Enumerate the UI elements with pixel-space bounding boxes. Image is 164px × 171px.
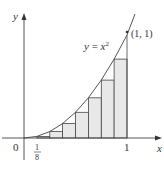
rectangles [37, 59, 127, 138]
rectangle-6 [88, 98, 101, 138]
point-1-1 [126, 31, 129, 34]
point-label: (1, 1) [131, 28, 153, 40]
tick-one-eighth-label: 1 8 [34, 143, 41, 162]
rectangle-3 [50, 132, 63, 138]
rectangle-8 [114, 59, 127, 138]
tick-1-label: 1 [124, 141, 130, 153]
function-label: y = x2 [83, 40, 110, 52]
rectangle-7 [101, 80, 114, 138]
svg-text:1: 1 [35, 143, 39, 152]
y-axis-label: y [12, 10, 18, 22]
svg-text:8: 8 [35, 153, 39, 162]
y-axis-arrow-icon [22, 13, 27, 20]
x-axis-arrow-icon [155, 136, 162, 141]
x-axis-label: x [156, 142, 162, 154]
rectangle-4 [63, 124, 76, 139]
riemann-sum-diagram: y x 0 1 1 8 (1, 1) y = x2 [0, 0, 164, 171]
rectangle-5 [76, 112, 89, 138]
origin-label: 0 [13, 141, 19, 153]
